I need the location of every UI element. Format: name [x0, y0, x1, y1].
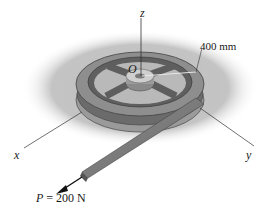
- force-value: = 200 N: [46, 191, 85, 205]
- pulley-diagram: z O 400 mm x y P = 200 N: [0, 0, 272, 216]
- x-axis-label: x: [14, 148, 19, 163]
- diagram-canvas: [0, 0, 272, 216]
- force-label: P = 200 N: [36, 191, 86, 206]
- radius-label: 400 mm: [200, 40, 236, 52]
- z-axis-label: z: [140, 6, 145, 21]
- y-axis-label: y: [246, 148, 251, 163]
- force-symbol: P: [36, 191, 43, 205]
- origin-label: O: [128, 62, 137, 77]
